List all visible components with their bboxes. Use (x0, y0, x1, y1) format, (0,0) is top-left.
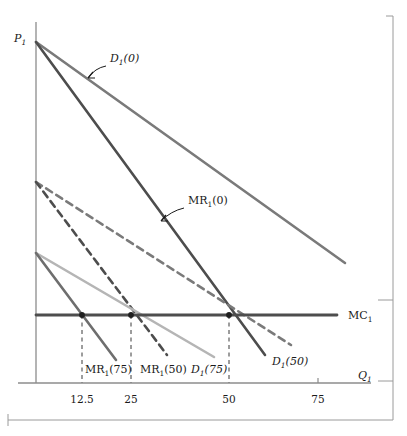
curve-mr1-75 (36, 253, 116, 360)
d1-0-arrowhead (88, 72, 95, 78)
curve-label-d1-0: D1(0) (109, 52, 139, 67)
curve-label-mr1-0: MR1(0) (188, 194, 228, 209)
equilibrium-point-25 (128, 312, 134, 318)
x-axis-label: Q1 (358, 369, 372, 384)
curve-mr1-50 (36, 182, 167, 355)
curve-d1-50 (36, 182, 291, 345)
x-tick-label-1: 25 (124, 393, 137, 405)
x-tick-label-3: 75 (311, 393, 324, 405)
equilibrium-point-12.5 (79, 312, 85, 318)
curve-mr1-0 (36, 42, 265, 355)
y-axis-label: P1 (13, 32, 26, 47)
d1-0-arrow (88, 66, 106, 78)
curve-label-mr1-75: MR1(75) (85, 363, 132, 378)
economics-diagram: P1 Q1 D1(0) MR1(0) MR1(75) MR1(50) D1(75… (0, 0, 407, 436)
curve-d1-0 (36, 42, 345, 263)
curve-label-mc1: MC1 (348, 309, 372, 324)
curve-label-d1-50: D1(50) (271, 355, 308, 370)
x-tick-label-2: 50 (222, 393, 235, 405)
curve-label-mr1-50: MR1(50) (140, 363, 187, 378)
curve-d1-75 (36, 253, 214, 357)
x-tick-label-0: 12.5 (70, 393, 93, 405)
equilibrium-point-50 (226, 312, 232, 318)
curve-label-d1-75: D1(75) (190, 363, 227, 378)
